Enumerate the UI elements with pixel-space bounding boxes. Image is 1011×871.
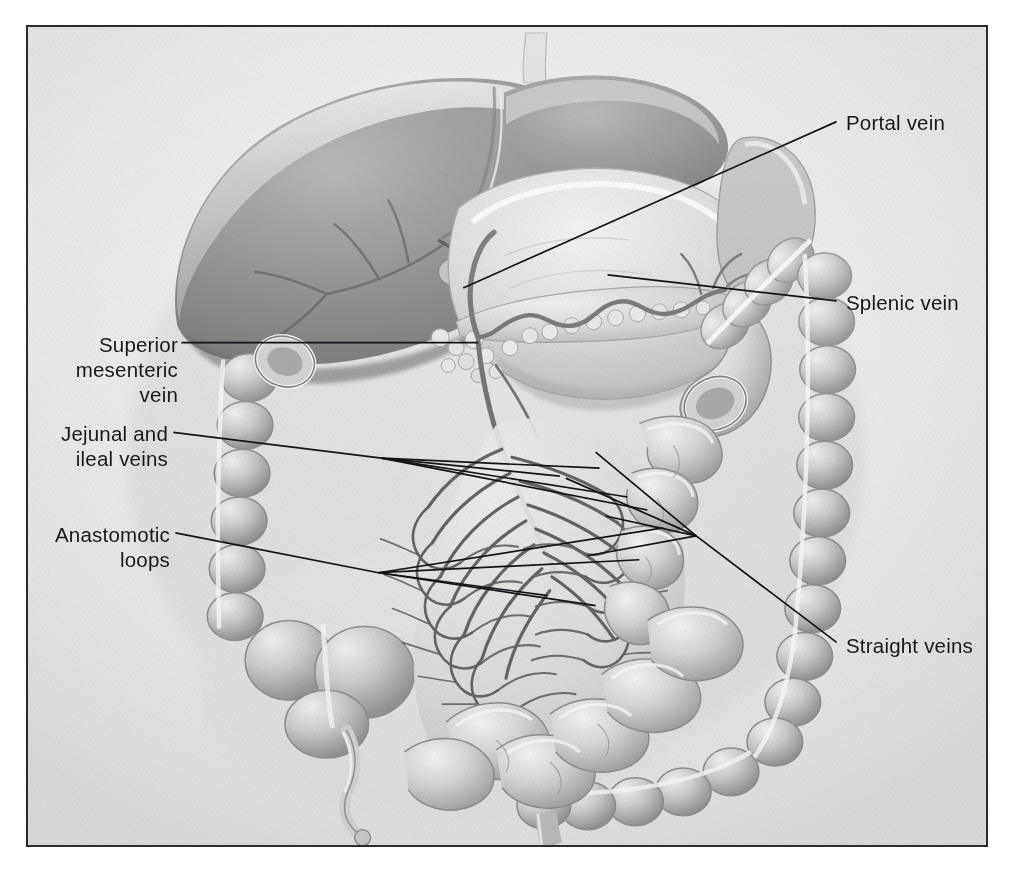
label-splenic-vein: Splenic vein	[846, 290, 959, 315]
label-anastomotic-loops: Anastomotic loops	[40, 522, 170, 572]
illustration-plate	[26, 25, 988, 847]
screenshot-root: Portal vein Splenic vein Superior mesent…	[0, 0, 1011, 871]
label-straight-veins: Straight veins	[846, 633, 973, 658]
label-superior-mesenteric-vein: Superior mesenteric vein	[54, 332, 178, 407]
anatomy-illustration	[28, 27, 986, 846]
label-portal-vein: Portal vein	[846, 110, 945, 135]
label-jejunal-and-ileal-veins: Jejunal and ileal veins	[48, 421, 168, 471]
